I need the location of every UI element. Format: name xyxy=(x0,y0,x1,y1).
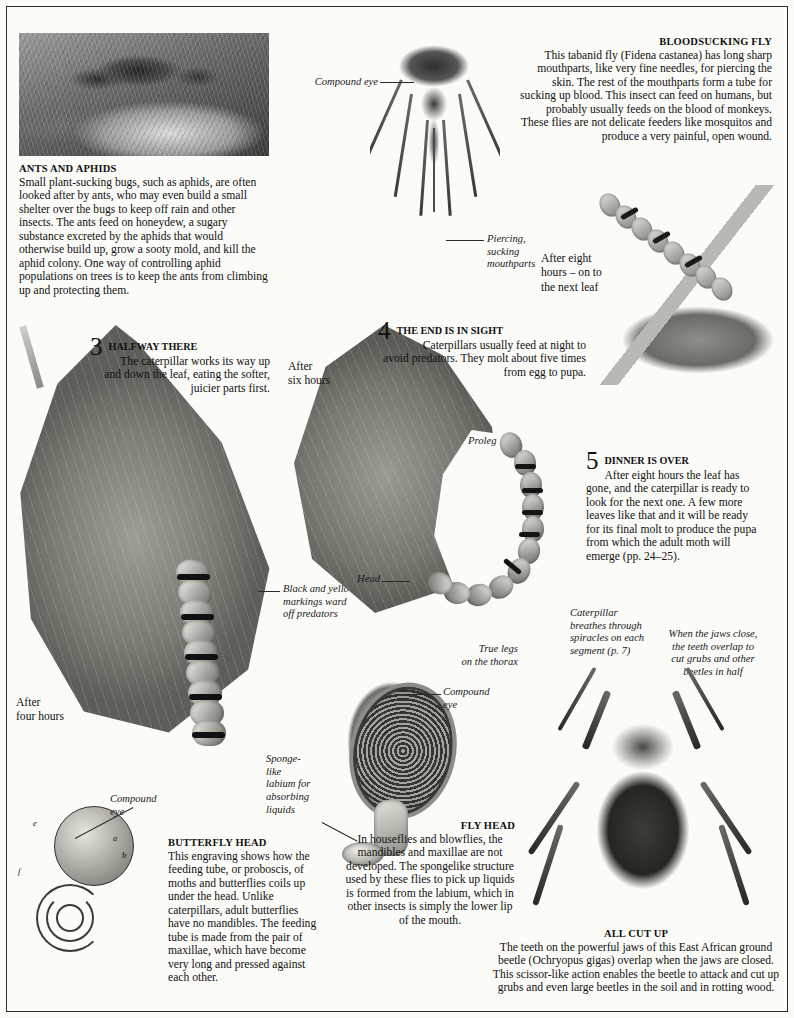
bloodsucking-fly-heading: BLOODSUCKING FLY xyxy=(520,36,772,47)
leader-line xyxy=(382,581,410,582)
ants-aphids-body: Small plant-sucking bugs, such as aphids… xyxy=(19,176,269,297)
label-fly-head-compound-eye: Compound eye xyxy=(443,686,513,711)
label-sponge-labium: Sponge- like labium for absorbing liquid… xyxy=(266,753,328,817)
fly-head-body: In houseflies and blowflies, the mandibl… xyxy=(345,833,515,927)
label-fly-compound-eye: Compound eye xyxy=(300,76,378,89)
all-cut-up-body: The teeth on the powerful jaws of this E… xyxy=(490,941,782,995)
step4-heading: THE END IS IN SIGHT xyxy=(397,325,503,336)
leader-line xyxy=(446,240,484,241)
fly-leg xyxy=(458,94,477,197)
caterpillar-band xyxy=(522,510,543,515)
label-proleg: Proleg xyxy=(468,435,524,448)
step3-section: 3 HALFWAY THERE The caterpillar works it… xyxy=(90,336,270,395)
book-page: ANTS AND APHIDS Small plant-sucking bugs… xyxy=(0,0,794,1018)
fly-leg xyxy=(466,79,500,159)
mark-f: f xyxy=(18,866,20,876)
caterpillar-band xyxy=(185,654,218,660)
all-cut-up-section: ALL CUT UP The teeth on the powerful jaw… xyxy=(490,928,782,995)
step3-number: 3 xyxy=(90,337,103,357)
bloodsucking-fly-body: This tabanid fly (Fidena castanea) has l… xyxy=(520,49,772,143)
ants-aphids-heading: ANTS AND APHIDS xyxy=(19,163,269,174)
label-after-four-hours: After four hours xyxy=(16,696,96,725)
leader-line xyxy=(258,591,280,592)
fly-leg xyxy=(442,120,452,216)
fly-leg xyxy=(419,120,429,216)
fly-head-section: FLY HEAD In houseflies and blowflies, th… xyxy=(345,820,515,927)
caterpillar-band xyxy=(189,694,222,700)
fly-leg xyxy=(370,79,403,159)
label-after-six-hours: After six hours xyxy=(288,360,358,389)
step5-heading: DINNER IS OVER xyxy=(605,455,689,466)
step4-body: Caterpillars usually feed at night to av… xyxy=(378,339,586,379)
label-spiracles: Caterpillar breathes through spiracles o… xyxy=(570,607,648,658)
ants-aphids-photo xyxy=(19,33,269,156)
caterpillar-band xyxy=(519,532,540,537)
butterfly-head-body: This engraving shows how the feeding tub… xyxy=(168,850,318,984)
caterpillar-band xyxy=(522,488,543,493)
tabanid-fly-photo xyxy=(370,24,500,234)
mark-a: a xyxy=(113,833,117,843)
butterfly-head-heading: BUTTERFLY HEAD xyxy=(168,837,318,848)
label-head: Head xyxy=(348,573,380,586)
beetle-mandible xyxy=(672,690,702,750)
caterpillar-band xyxy=(515,464,536,469)
step4-number: 4 xyxy=(378,321,391,341)
caterpillar-main-photo xyxy=(430,432,554,622)
mark-e: e xyxy=(33,818,37,828)
label-butterfly-compound-eye: Compound eye xyxy=(110,793,180,818)
step5-section: 5 DINNER IS OVER After eight hours the l… xyxy=(586,450,758,563)
proboscis-coil xyxy=(56,904,84,932)
beetle-mandible xyxy=(582,690,612,750)
step3-body: The caterpillar works its way up and dow… xyxy=(90,355,270,395)
step4-section: 4 THE END IS IN SIGHT Caterpillars usual… xyxy=(378,320,586,379)
leaf-stem xyxy=(19,325,43,388)
caterpillar-band xyxy=(177,574,210,580)
leader-line xyxy=(405,694,441,695)
caterpillar-band xyxy=(181,614,214,620)
bloodsucking-fly-section: BLOODSUCKING FLY This tabanid fly (Fiden… xyxy=(520,36,772,143)
step5-body: After eight hours the leaf has gone, and… xyxy=(586,469,758,563)
step3-heading: HALFWAY THERE xyxy=(109,341,198,352)
mark-b: b xyxy=(122,850,126,860)
fly-leg xyxy=(394,94,413,197)
fly-head-heading: FLY HEAD xyxy=(345,820,515,831)
ants-aphids-section: ANTS AND APHIDS Small plant-sucking bugs… xyxy=(19,163,269,297)
ground-beetle-photo xyxy=(505,655,775,920)
butterfly-head-section: BUTTERFLY HEAD This engraving shows how … xyxy=(168,837,318,984)
label-after-eight-hours: After eight hours – on to the next leaf xyxy=(541,252,615,295)
fly-proboscis xyxy=(433,128,435,212)
step5-number: 5 xyxy=(586,451,599,471)
all-cut-up-heading: ALL CUT UP xyxy=(490,928,782,939)
caterpillar-left-photo xyxy=(172,560,242,760)
leader-line xyxy=(380,82,414,83)
caterpillar-band xyxy=(192,732,225,738)
